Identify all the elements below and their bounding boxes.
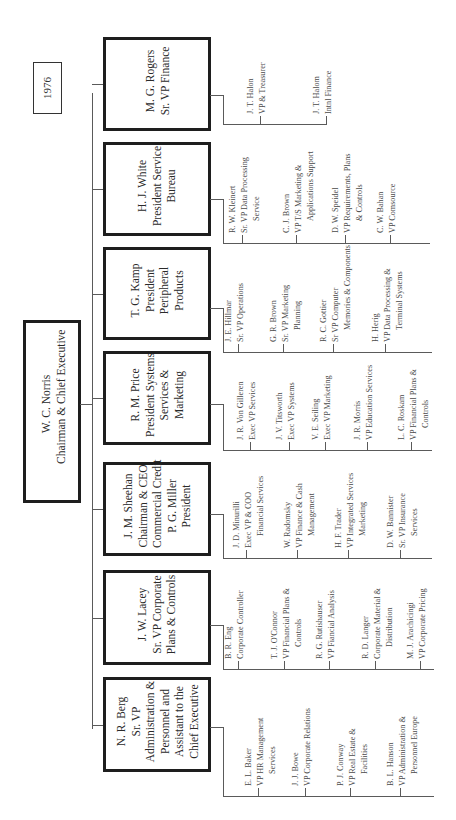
report-tick: [411, 442, 412, 450]
report-title-line: Applications Support: [305, 151, 317, 233]
report-title-line: Exec VP & COO: [243, 476, 255, 548]
division-head-title-line: President Systems: [143, 353, 158, 437]
report-name: V. E. Seiling: [310, 375, 322, 440]
report-title-line: VP Administration &: [397, 716, 409, 786]
division-box: M. G. RogersSr. VP Finance: [103, 37, 211, 131]
report-title-line: VP Real Estate &: [347, 728, 359, 786]
report-text: J. R. Von GillerenExec VP Services: [235, 381, 259, 440]
division-head-text: N. R. BergSr. VPAdministration &Personne…: [114, 679, 201, 764]
report-tick: [258, 788, 259, 796]
division-head-title-line: President: [143, 249, 158, 332]
report-text: P. J. ConwayVP Real Estate &Facilities: [335, 728, 371, 786]
division-connector: [210, 404, 224, 405]
report-text: B. L. HansonVP Administration &Personnel…: [385, 716, 421, 786]
division-head-name: J. W. Lacey: [135, 572, 150, 657]
division-head-text: T. G. KampPresidentPeripheralProducts: [128, 249, 186, 332]
division-head-title-line: Bureau: [164, 144, 179, 228]
report-title-line: Financial Services: [255, 476, 267, 548]
ceo-name: W. C. Norris: [39, 344, 54, 464]
report-text: J. R. MorrisVP Education Services: [352, 365, 376, 440]
division-connector: [210, 199, 224, 200]
report-title-line: Exec VP Services: [247, 381, 259, 440]
division-head-name: T. G. Kamp: [128, 249, 143, 332]
division-head-title-line: Sr. VP: [128, 679, 143, 764]
report-name: J. D. Minurilli: [231, 476, 243, 548]
trunk-branch: [92, 189, 103, 190]
report-tick: [329, 661, 330, 669]
division-head-title-line: President: [179, 464, 194, 548]
report-name: J. E. Hillmar: [223, 283, 235, 342]
division-head-text: R. M. PricePresident SystemsServices &Ma…: [128, 353, 186, 437]
report-name: R. D. Langer: [360, 588, 372, 659]
report-title-line: Sr. VP Insurance: [397, 493, 409, 548]
division-head-title-line: Personnel and: [157, 679, 172, 764]
trunk-branch: [92, 398, 103, 399]
report-text: D. W. SpeidelVP Requirements, Plans& Con…: [330, 153, 366, 233]
report-name: E. L. Baker: [243, 718, 255, 786]
report-title-line: Marketing: [357, 473, 369, 548]
report-name: P. J. Conway: [335, 728, 347, 786]
division-head-title-line: Assistant to the: [172, 679, 187, 764]
report-name: H. F. Trader: [333, 473, 345, 548]
trunk-branch: [92, 84, 103, 85]
report-title-line: Terminal Systems: [394, 268, 406, 342]
ceo-text: W. C. Norris Chairman & Chief Executive: [39, 344, 68, 464]
report-tick: [246, 550, 247, 558]
division-connector: [210, 514, 224, 515]
division-baseline: [223, 450, 432, 451]
report-name: L. C. Roskam: [396, 369, 408, 440]
report-title-line: Management: [306, 483, 318, 548]
report-title-line: Sr. VP Operations: [235, 283, 247, 342]
report-text: J. J. BoweVP Corporate Relations: [290, 708, 314, 786]
report-tick: [297, 550, 298, 558]
report-tick: [350, 788, 351, 796]
report-title-line: Planning: [292, 285, 304, 342]
report-tick: [284, 661, 285, 669]
report-title-line: VP Education Services: [364, 365, 376, 440]
division-head-title-line: Chairman & CEO: [135, 464, 150, 548]
report-name: B. L. Hanson: [385, 716, 397, 786]
report-title-line: Facilities: [359, 728, 371, 786]
report-title-line: Sr VP Computer: [330, 245, 342, 342]
report-name: T. J. O'Connor: [269, 588, 281, 659]
division-head-title-line: Peripheral: [157, 249, 172, 332]
division-head-title-line: President Service: [150, 144, 165, 228]
report-text: T. J. O'ConnorVP Financial Plans &Contro…: [269, 588, 305, 659]
division-head-text: H. J. WhitePresident ServiceBureau: [135, 144, 179, 228]
division-head-title-line: Sr. VP Finance: [157, 39, 172, 123]
trunk-branch: [92, 509, 103, 510]
report-tick: [367, 442, 368, 450]
report-name: R. C. Gottier: [318, 245, 330, 342]
report-name: W. Radomsky: [282, 483, 294, 548]
report-name: G. R. Brown: [268, 285, 280, 342]
division-head-title-line: Plans & Controls: [164, 572, 179, 657]
division-box: H. J. WhitePresident ServiceBureau: [103, 142, 211, 236]
report-text: R. C. GottierSr VP ComputerMemories & Co…: [318, 245, 354, 342]
report-text: V. E. SeilingExec VP Marketing: [310, 375, 334, 440]
report-name: B. R. Eng: [223, 591, 235, 659]
division-box: J. M. SheehanChairman & CEOCommercial Cr…: [103, 462, 211, 556]
division-head-title-line: P. G. Miller: [164, 464, 179, 548]
report-title-line: VP Comsource: [387, 183, 399, 233]
report-text: H. F. TraderVP Integrated ServicesMarket…: [333, 473, 369, 548]
report-tick: [400, 550, 401, 558]
report-text: J. V. TitsworthExec VP Systems: [274, 382, 298, 440]
report-name: R. W. Kleinert: [227, 157, 239, 233]
report-title-line: Sr. VP Marketing: [280, 285, 292, 342]
report-tick: [325, 442, 326, 450]
division-head-title-line: Products: [172, 249, 187, 332]
report-text: J. T. HalomIntnl Finance: [311, 71, 335, 114]
report-text: J. E. HillmarSr. VP Operations: [223, 283, 247, 342]
report-name: H. Herig: [370, 268, 382, 342]
report-text: R. G. RutishauserVP Fiancial Analysis: [314, 590, 338, 659]
division-head-title-line: Commercial Credit: [150, 464, 165, 548]
report-text: J. T. HalonVP & Treasurer: [245, 62, 269, 114]
report-title-line: VP Financial Plans &: [408, 369, 420, 440]
division-head-name: R. M. Price: [128, 353, 143, 437]
division-bracket: [223, 199, 224, 243]
report-text: D. W. BannisterSr. VP InsuranceServices: [385, 493, 421, 548]
report-name: J. V. Titsworth: [274, 382, 286, 440]
report-text: W. RadomskyVP Finance & CashManagement: [282, 483, 318, 548]
division-baseline: [223, 124, 327, 125]
report-name: J. T. Halon: [245, 62, 257, 114]
